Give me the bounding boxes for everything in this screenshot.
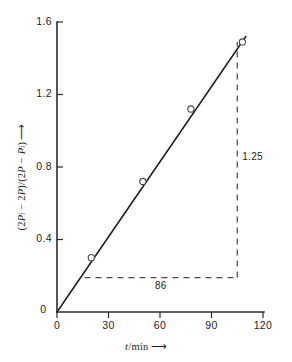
data-point-marker [140, 178, 146, 184]
x-tick-label-0: 0 [54, 319, 60, 331]
y-tick-label-1-6: 1.6 [36, 15, 52, 27]
rise-annotation-label: 1.25 [242, 151, 263, 162]
y-origin-label: 0 [40, 303, 46, 315]
y-tick-label-0-8: 0.8 [36, 160, 52, 172]
data-point-marker [88, 255, 94, 261]
y-tick-label-1-2: 1.2 [36, 87, 52, 99]
run-annotation-label: 86 [155, 280, 167, 291]
x-tick-label-30: 30 [102, 319, 114, 331]
data-point-marker [188, 106, 194, 112]
kinetics-chart: 1.6 1.2 0.8 0.4 0 0 30 60 90 120 86 1.25 [0, 0, 292, 362]
x-tick-label-120: 120 [254, 319, 273, 331]
x-tick-label-90: 90 [205, 319, 217, 331]
x-tick-label-60: 60 [154, 319, 166, 331]
data-point-marker [239, 39, 245, 45]
y-tick-label-0-4: 0.4 [36, 232, 52, 244]
